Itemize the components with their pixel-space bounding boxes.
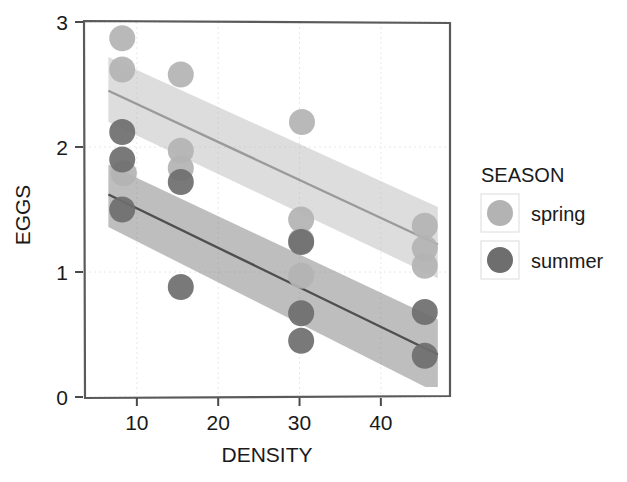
legend-title: SEASON bbox=[481, 164, 564, 186]
data-point-summer bbox=[412, 299, 438, 325]
scatter-plot: 10203040 0123 DENSITY EGGS SEASON spring… bbox=[0, 0, 627, 482]
legend-label-spring: spring bbox=[531, 203, 585, 225]
x-axis-title: DENSITY bbox=[221, 443, 312, 466]
x-tick-label: 40 bbox=[369, 411, 392, 434]
x-tick-label: 30 bbox=[288, 411, 311, 434]
data-point-spring bbox=[289, 109, 315, 135]
y-tick-label: 3 bbox=[56, 11, 68, 34]
data-point-summer bbox=[288, 300, 314, 326]
data-point-spring bbox=[109, 25, 135, 51]
legend-marker-summer bbox=[487, 247, 513, 273]
y-tick-label: 2 bbox=[56, 136, 68, 159]
data-point-summer bbox=[412, 343, 438, 369]
x-tick-label: 10 bbox=[125, 411, 148, 434]
data-point-summer bbox=[168, 169, 194, 195]
data-point-spring bbox=[412, 213, 438, 239]
legend-marker-spring bbox=[487, 200, 513, 226]
data-point-summer bbox=[288, 229, 314, 255]
data-point-spring bbox=[288, 263, 314, 289]
y-tick-label: 1 bbox=[56, 261, 68, 284]
data-point-summer bbox=[288, 328, 314, 354]
data-point-summer bbox=[109, 197, 135, 223]
y-axis-title: EGGS bbox=[11, 185, 34, 246]
data-point-summer bbox=[109, 119, 135, 145]
data-point-summer bbox=[109, 147, 135, 173]
data-point-summer bbox=[168, 274, 194, 300]
data-point-spring bbox=[109, 57, 135, 83]
chart-figure: 10203040 0123 DENSITY EGGS SEASON spring… bbox=[0, 0, 627, 482]
data-point-spring bbox=[412, 253, 438, 279]
x-tick-label: 20 bbox=[207, 411, 230, 434]
y-tick-label: 0 bbox=[56, 386, 68, 409]
legend-label-summer: summer bbox=[531, 250, 604, 272]
data-point-spring bbox=[168, 62, 194, 88]
